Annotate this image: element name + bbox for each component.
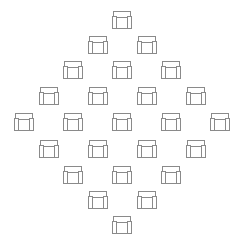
armchair-icon [62,165,84,186]
armchair-icon [136,86,158,107]
armchair-icon [87,86,109,107]
armchair-icon [160,112,182,133]
armchair-icon [136,190,158,211]
armchair-icon [62,112,84,133]
armchair-icon [111,112,133,133]
armchair-icon [87,139,109,160]
armchair-icon [160,165,182,186]
armchair-icon [185,139,207,160]
armchair-icon [62,60,84,81]
armchair-icon [136,35,158,56]
armchair-icon [185,86,207,107]
armchair-icon [111,215,133,236]
armchair-icon [38,139,60,160]
armchair-icon [209,112,231,133]
armchair-icon [38,86,60,107]
armchair-icon [111,10,133,31]
armchair-icon [87,190,109,211]
armchair-icon [111,60,133,81]
armchair-icon [111,165,133,186]
armchair-pattern-canvas [0,0,245,237]
armchair-icon [87,35,109,56]
armchair-icon [136,139,158,160]
armchair-icon [160,60,182,81]
armchair-icon [13,112,35,133]
